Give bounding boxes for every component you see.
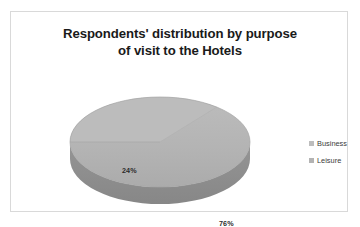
pie-chart-graphic [23, 74, 297, 210]
data-label-leisure: 76% [219, 219, 234, 227]
legend-swatch-leisure [309, 158, 314, 163]
chart-title: Respondents' distribution by purpose of … [23, 25, 337, 59]
pie-chart-plot-area: 24% 76% [23, 74, 297, 210]
chart-title-line-2: of visit to the Hotels [23, 42, 337, 59]
chart-legend: Business Leisure [309, 136, 360, 170]
legend-item-business[interactable]: Business [309, 136, 360, 150]
legend-label-business: Business [317, 139, 347, 148]
data-label-business: 24% [122, 166, 137, 175]
chart-title-line-1: Respondents' distribution by purpose [23, 25, 337, 42]
legend-swatch-business [309, 141, 314, 146]
legend-label-leisure: Leisure [317, 156, 341, 165]
legend-item-leisure[interactable]: Leisure [309, 153, 360, 167]
chart-frame: Respondents' distribution by purpose of … [10, 11, 348, 212]
